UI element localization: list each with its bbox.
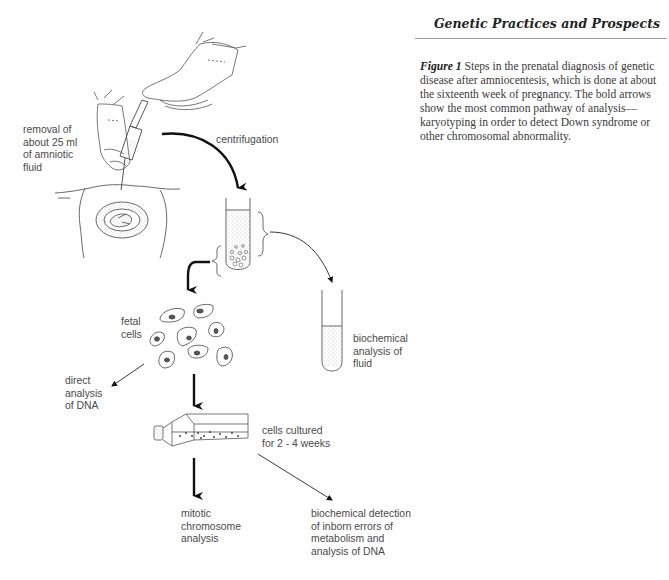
- label-fetal-cells: fetal cells: [121, 316, 142, 341]
- label-mitotic-chromosome-analysis: mitotic chromosome analysis: [181, 508, 241, 546]
- abdomen-with-fetus-illustration: [55, 185, 180, 258]
- pellet-brace: [212, 246, 221, 276]
- centrifuge-tube: [226, 198, 250, 270]
- label-cells-cultured: cells cultured for 2 - 4 weeks: [262, 425, 330, 450]
- amniocentesis-diagram: [0, 0, 669, 580]
- fluid-tube: [322, 290, 342, 371]
- label-biochemical-detection: biochemical detection of inborn errors o…: [311, 508, 411, 558]
- label-direct-analysis-of-dna: direct analysis of DNA: [65, 375, 103, 413]
- arrow-to-fluid-analysis: [270, 232, 332, 282]
- fetal-cells-cluster: [150, 304, 232, 368]
- upper-hand-illustration: [142, 32, 246, 110]
- label-centrifugation: centrifugation: [216, 134, 278, 147]
- culture-flask: [154, 414, 248, 446]
- label-biochemical-analysis-of-fluid: biochemical analysis of fluid: [353, 333, 408, 371]
- arrow-to-biochemical-detection: [258, 454, 332, 500]
- page: Genetic Practices and Prospects Figure 1…: [0, 0, 669, 580]
- supernatant-brace: [258, 212, 268, 256]
- label-removal-of-fluid: removal of about 25 ml of amniotic fluid: [23, 124, 77, 174]
- arrow-to-direct-dna-analysis: [112, 364, 144, 386]
- syringe-illustration: [120, 100, 148, 190]
- bold-arrow-to-fetal-cells: [188, 262, 210, 290]
